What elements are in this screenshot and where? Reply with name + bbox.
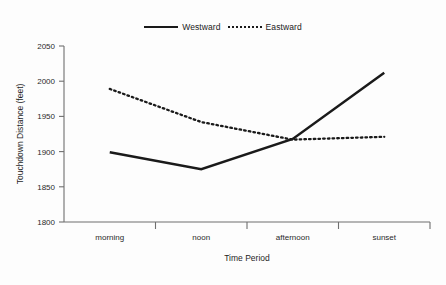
x-axis-title: Time Period — [224, 253, 270, 263]
x-tick-label-afternoon: afternoon — [276, 233, 310, 242]
x-tick-label-morning: morning — [95, 233, 124, 242]
y-tick-label-1850: 1850 — [37, 183, 55, 192]
x-tick-label-noon: noon — [192, 233, 210, 242]
y-tick-label-1950: 1950 — [37, 112, 55, 121]
y-tick-label-1800: 1800 — [37, 218, 55, 227]
y-tick-label-2000: 2000 — [37, 77, 55, 86]
series-line-eastward — [110, 89, 385, 140]
y-tick-label-2050: 2050 — [37, 42, 55, 51]
x-tick-label-sunset: sunset — [372, 233, 396, 242]
chart-plot-area: 1800 1850 1900 1950 2000 2050 morning no… — [0, 0, 446, 285]
y-tick-label-1900: 1900 — [37, 148, 55, 157]
series-line-westward — [110, 73, 385, 169]
y-axis-title: Touchdown Distance (feet) — [15, 84, 25, 185]
chart-container: Westward Eastward 1800 1850 1900 1950 20… — [0, 0, 446, 285]
